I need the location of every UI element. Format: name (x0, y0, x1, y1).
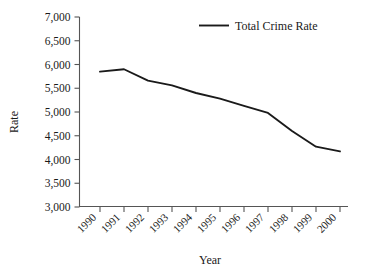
y-axis-title: Rate (7, 111, 21, 133)
legend-label-total-crime-rate: Total Crime Rate (235, 19, 317, 33)
chart-container: 7,0006,5006,0005,5005,0004,5004,0003,500… (0, 0, 368, 275)
y-tick-label: 5,500 (45, 82, 71, 95)
y-tick-label: 6,000 (45, 59, 71, 72)
y-tick-label: 4,000 (45, 154, 71, 167)
y-tick-label: 7,000 (45, 11, 71, 24)
y-tick-label: 3,000 (45, 201, 71, 214)
y-tick-label: 6,500 (45, 35, 71, 48)
y-tick-label: 5,000 (45, 106, 71, 119)
line-chart: 7,0006,5006,0005,5005,0004,5004,0003,500… (0, 0, 368, 275)
y-tick-label: 3,500 (45, 177, 71, 190)
y-tick-label: 4,500 (45, 130, 71, 143)
x-axis-title: Year (199, 253, 221, 267)
y-axis-tick-labels: 7,0006,5006,0005,5005,0004,5004,0003,500… (45, 11, 71, 214)
